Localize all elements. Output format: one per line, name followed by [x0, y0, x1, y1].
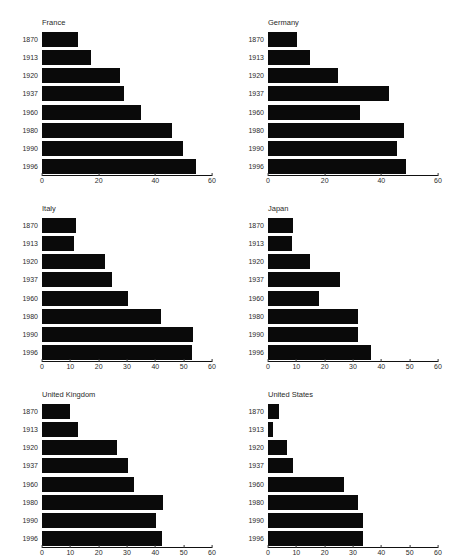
category-label: 1980	[22, 313, 38, 320]
category-label: 1870	[22, 222, 38, 229]
plot-area-italy: 18701913192019371960198019901996	[42, 216, 212, 362]
bar	[268, 513, 363, 528]
category-label: 1913	[248, 240, 264, 247]
bar	[268, 531, 363, 546]
panel-title-united-kingdom: United Kingdom	[42, 390, 95, 399]
panel-japan: Japan18701913192019371960198019901996010…	[226, 204, 452, 390]
bar	[42, 50, 91, 65]
x-tick-mark	[324, 359, 325, 362]
x-tick-label: 60	[434, 177, 442, 184]
bar-row: 1913	[42, 234, 212, 252]
bar-row: 1920	[268, 67, 438, 85]
x-axis-japan: 0102030405060	[268, 363, 438, 379]
bar-row: 1960	[42, 289, 212, 307]
x-tick-mark	[324, 545, 325, 548]
x-tick-label: 40	[151, 549, 159, 556]
x-tick-mark	[155, 359, 156, 362]
category-label: 1913	[248, 426, 264, 433]
bar	[268, 50, 310, 65]
bar	[42, 105, 141, 120]
bar-row: 1937	[268, 457, 438, 475]
bar	[42, 422, 78, 437]
bar-row: 1920	[42, 67, 212, 85]
x-tick-label: 20	[95, 549, 103, 556]
category-label: 1920	[22, 258, 38, 265]
bar-row: 1913	[268, 48, 438, 66]
x-tick-mark	[42, 173, 43, 176]
bar-row: 1870	[42, 30, 212, 48]
panel-title-france: France	[42, 18, 65, 27]
x-tick-mark	[324, 173, 325, 176]
category-label: 1960	[22, 109, 38, 116]
category-label: 1937	[22, 276, 38, 283]
bar	[42, 458, 128, 473]
category-label: 1920	[22, 72, 38, 79]
x-tick-label: 60	[434, 549, 442, 556]
bar	[42, 218, 76, 233]
panel-title-japan: Japan	[268, 204, 288, 213]
bar-row: 1913	[268, 234, 438, 252]
bar-rows-france: 18701913192019371960198019901996	[42, 30, 212, 176]
bar	[268, 345, 371, 360]
x-tick-mark	[409, 359, 410, 362]
bar	[42, 272, 112, 287]
x-tick-mark	[212, 545, 213, 548]
bar-row: 1960	[42, 475, 212, 493]
bar-row: 1990	[268, 326, 438, 344]
bar-row: 1996	[42, 158, 212, 176]
x-tick-mark	[98, 173, 99, 176]
x-tick-label: 10	[292, 363, 300, 370]
x-axis-france: 0204060	[42, 177, 212, 193]
bar	[42, 495, 163, 510]
x-tick-label: 50	[180, 363, 188, 370]
x-axis-united-states: 0102030405060	[268, 549, 438, 560]
x-tick-label: 40	[377, 549, 385, 556]
x-tick-mark	[98, 545, 99, 548]
x-tick-label: 40	[377, 177, 385, 184]
bar	[268, 32, 297, 47]
bar	[268, 123, 404, 138]
panel-title-united-states: United States	[268, 390, 313, 399]
x-tick-label: 0	[266, 549, 270, 556]
category-label: 1990	[248, 331, 264, 338]
x-tick-mark	[438, 173, 439, 176]
x-tick-label: 60	[434, 363, 442, 370]
bar	[268, 458, 293, 473]
category-label: 1920	[22, 444, 38, 451]
bar	[268, 477, 344, 492]
panel-united-states: United States187019131920193719601980199…	[226, 390, 452, 560]
category-label: 1990	[248, 517, 264, 524]
x-tick-mark	[155, 173, 156, 176]
x-tick-mark	[70, 545, 71, 548]
bar-row: 1980	[42, 121, 212, 139]
bar-row: 1980	[42, 307, 212, 325]
category-label: 1937	[22, 462, 38, 469]
bar	[42, 141, 183, 156]
bar-rows-japan: 18701913192019371960198019901996	[268, 216, 438, 362]
category-label: 1913	[248, 54, 264, 61]
x-tick-label: 50	[180, 549, 188, 556]
x-axis-line-germany	[268, 175, 438, 176]
x-tick-label: 30	[349, 363, 357, 370]
plot-area-germany: 18701913192019371960198019901996	[268, 30, 438, 176]
x-tick-label: 60	[208, 549, 216, 556]
x-tick-label: 30	[349, 549, 357, 556]
bar-row: 1870	[42, 216, 212, 234]
bar-row: 1980	[268, 493, 438, 511]
category-label: 1937	[248, 276, 264, 283]
x-tick-label: 30	[123, 363, 131, 370]
x-axis-italy: 0102030405060	[42, 363, 212, 379]
x-tick-label: 40	[377, 363, 385, 370]
x-tick-mark	[127, 359, 128, 362]
category-label: 1980	[248, 499, 264, 506]
bar-row: 1937	[42, 271, 212, 289]
bar-row: 1913	[268, 420, 438, 438]
x-tick-mark	[268, 545, 269, 548]
x-tick-label: 0	[40, 363, 44, 370]
bar-row: 1937	[268, 271, 438, 289]
x-tick-mark	[70, 359, 71, 362]
x-tick-mark	[212, 173, 213, 176]
x-tick-mark	[212, 359, 213, 362]
x-tick-label: 20	[321, 177, 329, 184]
category-label: 1937	[248, 462, 264, 469]
